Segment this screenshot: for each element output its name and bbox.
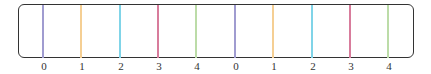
tick-label: 4 bbox=[189, 60, 205, 72]
colored-line-5 bbox=[234, 5, 236, 58]
tick-label: 3 bbox=[343, 60, 359, 72]
tick-label: 1 bbox=[74, 60, 90, 72]
colored-line-4 bbox=[195, 5, 197, 58]
tick-label: 1 bbox=[266, 60, 282, 72]
tick-label: 0 bbox=[228, 60, 244, 72]
colored-line-7 bbox=[311, 5, 313, 58]
diagram-frame bbox=[18, 4, 414, 58]
colored-line-2 bbox=[119, 5, 121, 58]
tick-label: 2 bbox=[305, 60, 321, 72]
tick-label: 0 bbox=[36, 60, 52, 72]
colored-line-8 bbox=[349, 5, 351, 58]
tick-label: 3 bbox=[151, 60, 167, 72]
colored-line-9 bbox=[387, 5, 389, 58]
colored-line-0 bbox=[42, 5, 44, 58]
colored-line-3 bbox=[157, 5, 159, 58]
tick-label: 4 bbox=[381, 60, 397, 72]
colored-line-6 bbox=[272, 5, 274, 58]
tick-label: 2 bbox=[113, 60, 129, 72]
colored-line-1 bbox=[80, 5, 82, 58]
